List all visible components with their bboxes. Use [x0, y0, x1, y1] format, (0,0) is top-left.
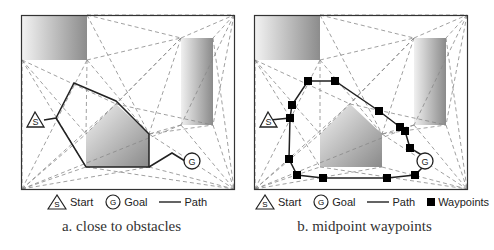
svg-text:S: S [262, 200, 267, 209]
start-triangle-icon: S [255, 194, 275, 210]
obstacle-top-left [255, 15, 320, 60]
goal-marker: G [184, 153, 200, 169]
legend-path: Path [159, 196, 207, 208]
obstacle-pentagon [320, 104, 382, 167]
svg-text:G: G [110, 198, 116, 207]
start-marker: S [27, 112, 44, 127]
obstacle-right [181, 38, 213, 125]
goal-path-line [149, 153, 185, 167]
legend-b: S Start G Goal Path Waypoints [255, 194, 494, 210]
legend-start: S Start [47, 194, 93, 210]
svg-text:S: S [265, 117, 271, 127]
svg-text:G: G [188, 157, 195, 167]
obstacle-pentagon [86, 104, 149, 167]
svg-text:G: G [318, 198, 324, 207]
goal-circle-icon: G [105, 194, 121, 210]
path-line-icon [367, 200, 389, 204]
panel-b-diagram: S G [232, 0, 486, 195]
waypoint-square-icon [427, 198, 435, 206]
caption-b: b. midpoint waypoints [243, 218, 486, 235]
obstacles [22, 15, 213, 167]
path-line-icon [159, 200, 181, 204]
svg-text:S: S [54, 200, 59, 209]
legend-a: S Start G Goal Path [47, 194, 215, 210]
obstacle-top-left [22, 15, 87, 60]
svg-text:S: S [32, 117, 38, 127]
obstacle-right [414, 38, 446, 125]
legend-goal: G Goal [105, 194, 147, 210]
panel-a-diagram: S G [0, 0, 243, 195]
goal-circle-icon: G [313, 194, 329, 210]
legend-path: Path [367, 196, 415, 208]
svg-text:G: G [421, 157, 428, 167]
caption-a: a. close to obstacles [0, 218, 243, 235]
legend-waypoints: Waypoints [427, 196, 489, 208]
legend-goal: G Goal [313, 194, 355, 210]
goal-marker: G [417, 153, 433, 169]
legend-start: S Start [255, 194, 301, 210]
start-triangle-icon: S [47, 194, 67, 210]
